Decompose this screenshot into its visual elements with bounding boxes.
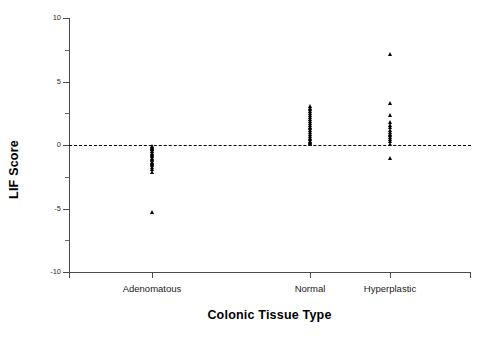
data-point-marker: [388, 101, 392, 105]
y-tick-minor: [65, 113, 69, 114]
data-point-marker: [308, 132, 312, 136]
data-point-marker: [150, 149, 154, 153]
y-tick-label: 10: [3, 13, 61, 22]
data-point-marker: [308, 115, 312, 119]
y-tick-label: -5: [3, 204, 61, 213]
x-tick: [310, 272, 311, 278]
data-point-marker: [388, 135, 392, 139]
data-point-marker: [150, 170, 154, 174]
data-point-marker: [150, 160, 154, 164]
data-point-marker: [388, 125, 392, 129]
y-tick-label-wrap: -5: [0, 204, 61, 214]
data-point-marker: [150, 161, 154, 165]
data-point-marker: [150, 146, 154, 150]
y-tick-minor: [65, 177, 69, 178]
y-tick-label-wrap: 5: [0, 77, 61, 87]
data-point-marker: [308, 134, 312, 138]
data-point-marker: [308, 137, 312, 141]
y-tick-major: [63, 18, 69, 19]
data-point-marker: [308, 104, 312, 108]
data-point-marker: [388, 120, 392, 124]
data-point-marker: [388, 139, 392, 143]
data-point-marker: [308, 109, 312, 113]
data-point-marker: [150, 158, 154, 162]
data-point-marker: [150, 167, 154, 171]
data-point-marker: [388, 123, 392, 127]
y-tick-label-wrap: -10: [0, 267, 61, 277]
x-axis-line: [69, 272, 471, 273]
data-point-marker: [308, 117, 312, 121]
data-point-marker: [308, 125, 312, 129]
data-point-marker: [308, 136, 312, 140]
data-point-marker: [308, 107, 312, 111]
data-point-marker: [308, 139, 312, 143]
data-point-marker: [388, 128, 392, 132]
data-point-marker: [150, 210, 154, 214]
y-tick-label: 0: [3, 140, 61, 149]
data-point-marker: [150, 149, 154, 153]
x-tick: [152, 272, 153, 278]
y-tick-label: 5: [3, 77, 61, 86]
data-point-marker: [308, 121, 312, 125]
y-tick-minor: [65, 50, 69, 51]
data-point-marker: [308, 106, 312, 110]
data-point-marker: [150, 154, 154, 158]
y-axis-title: LIF Score: [0, 0, 28, 339]
data-point-marker: [308, 130, 312, 134]
y-tick-label-wrap: 0: [0, 140, 61, 150]
data-point-marker: [388, 132, 392, 136]
data-point-marker: [308, 123, 312, 127]
x-tick: [470, 272, 471, 278]
x-tick: [390, 272, 391, 278]
x-tick: [69, 272, 70, 278]
data-point-marker: [388, 113, 392, 117]
data-point-marker: [388, 133, 392, 137]
data-point-marker: [150, 163, 154, 167]
y-tick-major: [63, 82, 69, 83]
data-point-marker: [308, 140, 312, 144]
data-point-marker: [150, 156, 154, 160]
x-tick-label-adenomatous: Adenomatous: [123, 283, 182, 294]
y-tick-major: [63, 209, 69, 210]
x-tick-label-hyperplastic: Hyperplastic: [364, 283, 416, 294]
data-point-marker: [308, 111, 312, 115]
data-point-marker: [308, 119, 312, 123]
y-tick-label: -10: [3, 267, 61, 276]
data-point-marker: [308, 113, 312, 117]
data-point-marker: [150, 147, 154, 151]
x-axis-title: Colonic Tissue Type: [69, 308, 470, 322]
data-point-marker: [150, 151, 154, 155]
data-point-marker: [150, 162, 154, 166]
data-point-marker: [308, 128, 312, 132]
data-point-marker: [150, 165, 154, 169]
zero-reference-line: [69, 145, 471, 146]
y-tick-minor: [65, 240, 69, 241]
data-point-marker: [388, 156, 392, 160]
chart-figure: LIF Score 1050-5-10 AdenomatousNormalHyp…: [0, 0, 486, 339]
data-point-marker: [150, 153, 154, 157]
data-point-marker: [150, 152, 154, 156]
data-point-marker: [150, 157, 154, 161]
data-point-marker: [388, 137, 392, 141]
data-point-marker: [150, 147, 154, 151]
data-point-marker: [388, 52, 392, 56]
data-point-marker: [388, 130, 392, 134]
data-point-marker: [308, 126, 312, 130]
y-tick-label-wrap: 10: [0, 13, 61, 23]
x-tick-label-normal: Normal: [295, 283, 326, 294]
